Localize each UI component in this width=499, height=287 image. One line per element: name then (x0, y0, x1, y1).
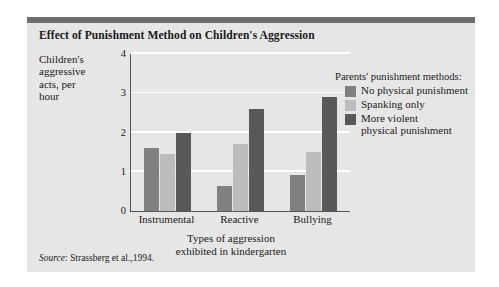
plot-wrapper: 01234 InstrumentalReactiveBullying (113, 54, 349, 226)
legend-item-label: No physical punishment (361, 84, 468, 96)
bar (306, 152, 321, 211)
figure-title: Effect of Punishment Method on Children'… (39, 29, 459, 41)
legend-item-label: Spanking only (361, 98, 425, 110)
y-axis-title-line: acts, per (39, 78, 113, 90)
y-axis-tick: 4 (121, 49, 126, 60)
source-label: Source (39, 253, 65, 263)
legend-item: More violentphysical punishment (345, 112, 475, 137)
y-axis-tick-labels: 01234 (113, 54, 128, 211)
x-axis-tick: Bullying (293, 213, 332, 225)
legend-swatch-icon (345, 100, 356, 111)
bar (160, 154, 175, 211)
y-axis-tick: 1 (121, 167, 126, 178)
legend-item-label: More violentphysical punishment (361, 112, 452, 137)
legend-item: Spanking only (345, 98, 475, 111)
x-axis-title-line: Types of aggression (113, 232, 349, 245)
y-axis-title-line: hour (39, 90, 113, 102)
legend-item: No physical punishment (345, 84, 475, 97)
legend-swatch-icon (345, 86, 356, 97)
bar (144, 148, 159, 211)
y-axis-tick: 0 (121, 206, 126, 217)
bar (233, 144, 248, 211)
bar (290, 175, 305, 211)
x-axis-tick-labels: InstrumentalReactiveBullying (130, 213, 349, 229)
y-axis-title: Children's aggressive acts, per hour (39, 53, 113, 103)
x-axis-tick: Instrumental (139, 213, 195, 225)
y-axis-title-line: Children's (39, 53, 113, 65)
bar (217, 186, 232, 212)
legend: Parents' punishment methods: No physical… (335, 71, 475, 137)
legend-items: No physical punishmentSpanking onlyMore … (335, 84, 475, 137)
bar (249, 109, 264, 211)
y-axis-tick: 2 (121, 127, 126, 138)
source-citation: : Strassberg et al.,1994. (65, 253, 154, 263)
card-top-accent-bar (27, 17, 475, 23)
y-axis-tick: 3 (121, 88, 126, 99)
bar (176, 133, 191, 212)
y-axis-title-line: aggressive (39, 65, 113, 77)
legend-title: Parents' punishment methods: (335, 71, 475, 82)
bars-layer (131, 54, 350, 211)
x-axis-tick: Reactive (220, 213, 258, 225)
source-note: Source: Strassberg et al.,1994. (39, 253, 154, 263)
legend-swatch-icon (345, 114, 356, 125)
figure-card: Effect of Punishment Method on Children'… (27, 17, 475, 272)
plot-area (130, 54, 350, 212)
